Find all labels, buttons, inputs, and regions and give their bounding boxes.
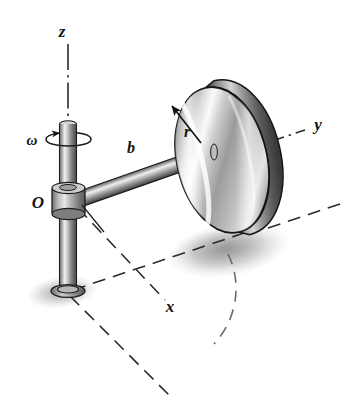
angular-velocity-label: ω bbox=[27, 132, 38, 148]
axis-label-x: x bbox=[165, 297, 175, 316]
shaft-base-ring bbox=[51, 285, 85, 298]
axis-label-z: z bbox=[58, 22, 66, 41]
origin-label: O bbox=[32, 193, 44, 212]
axis-y-extension bbox=[268, 203, 343, 228]
hub-collar bbox=[52, 182, 85, 219]
axis-label-y: y bbox=[312, 115, 322, 134]
disk-radius-label: r bbox=[184, 123, 191, 140]
ground-line-base-to-front bbox=[70, 296, 172, 398]
arm-length-label: b bbox=[127, 139, 135, 156]
arm-disk-joint bbox=[211, 144, 218, 160]
hub-leader-line bbox=[82, 205, 104, 232]
diagram-canvas: z y x O b r ω bbox=[0, 0, 349, 406]
disk bbox=[160, 70, 297, 247]
mechanics-diagram-figure: z y x O b r ω bbox=[0, 0, 349, 406]
